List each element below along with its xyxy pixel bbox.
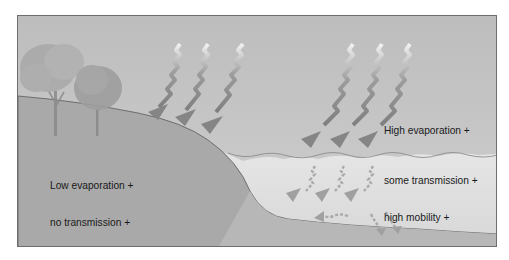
water-label-line: high mobility + [384, 212, 484, 224]
water-evaporation-label: High evaporation + [384, 125, 470, 137]
ray-arrowheads-water [301, 131, 378, 148]
land-label-line: no transmission + [50, 217, 155, 229]
water-label-line: some transmission + [384, 175, 484, 187]
sun-rays-land [159, 44, 243, 112]
diagram-frame: Low evaporation + no transmission + no m… [17, 15, 497, 247]
land-heating-label: Low evaporation + no transmission + no m… [50, 155, 155, 247]
water-heating-label: some transmission + high mobility + high… [384, 150, 484, 247]
land-label-line: Low evaporation + [50, 180, 155, 192]
sun-rays-water [324, 44, 410, 125]
